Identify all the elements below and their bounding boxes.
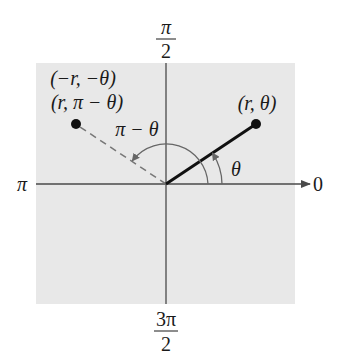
- label-point-r-theta: (r, θ): [238, 92, 277, 115]
- polar-diagram: π 2 π 0 3π 2 (r, θ) (−r, −θ) (r, π − θ) …: [0, 0, 340, 362]
- point-r-theta: [251, 119, 261, 129]
- label-right: 0: [313, 173, 323, 195]
- label-theta: θ: [231, 158, 241, 180]
- label-bottom-denominator: 2: [161, 333, 171, 355]
- label-left: π: [17, 173, 28, 195]
- label-reflected-line1: (−r, −θ): [50, 67, 116, 90]
- label-bottom-numerator: 3π: [156, 308, 176, 330]
- label-reflected-line2: (r, π − θ): [51, 91, 124, 114]
- label-top-denominator: 2: [161, 40, 171, 62]
- point-reflected: [71, 119, 81, 129]
- label-top-numerator: π: [161, 16, 172, 38]
- label-pi-minus-theta: π − θ: [115, 118, 159, 140]
